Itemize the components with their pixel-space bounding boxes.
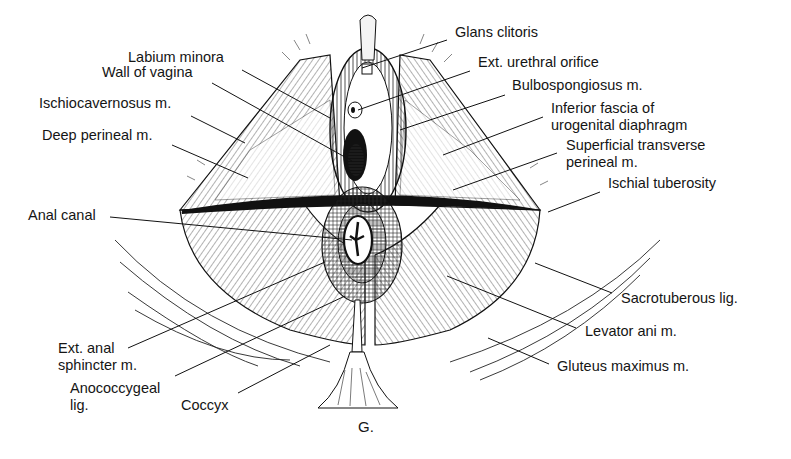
- label-bulbospongiosus: Bulbospongiosus m.: [512, 77, 643, 94]
- label-deep-perineal: Deep perineal m.: [42, 127, 152, 144]
- label-text: Gluteus maximus m.: [557, 358, 689, 375]
- label-text: Deep perineal m.: [42, 127, 152, 144]
- label-text: Superficial transverse: [566, 137, 705, 154]
- label-text: Anococcygeal: [70, 380, 160, 397]
- label-superficial-transverse: Superficial transverseperineal m.: [566, 137, 705, 171]
- label-text-line2: urogenital diaphragm: [551, 117, 687, 134]
- leader-ischial-tuberosity: [548, 192, 600, 212]
- glans-clitoris: [360, 15, 376, 60]
- label-text: Glans clitoris: [455, 24, 538, 41]
- label-gluteus-maximus: Gluteus maximus m.: [557, 358, 689, 375]
- coccyx: [318, 352, 398, 408]
- figure-caption: G.: [358, 418, 374, 435]
- label-text: Wall of vagina: [102, 64, 193, 81]
- label-text-line2: sphincter m.: [58, 357, 137, 374]
- label-text: Ext. anal: [58, 340, 137, 357]
- label-glans-clitoris: Glans clitoris: [455, 24, 538, 41]
- leader-coccyx: [238, 345, 330, 393]
- label-coccyx: Coccyx: [181, 397, 229, 414]
- label-text: Anal canal: [28, 207, 96, 224]
- label-text: Ext. urethral orifice: [478, 54, 599, 71]
- label-sacrotuberous: Sacrotuberous lig.: [621, 290, 738, 307]
- label-anal-canal: Anal canal: [28, 207, 96, 224]
- leader-gluteus-maximus: [488, 338, 549, 364]
- label-text: Levator ani m.: [585, 323, 677, 340]
- label-text-line2: perineal m.: [566, 154, 705, 171]
- label-wall-of-vagina: Wall of vagina: [102, 64, 193, 81]
- label-text: Ischiocavernosus m.: [39, 95, 171, 112]
- leader-sacrotuberous: [535, 263, 612, 293]
- label-text: Inferior fascia of: [551, 100, 687, 117]
- label-anococcygeal: Anococcygeallig.: [70, 380, 160, 414]
- label-text: Coccyx: [181, 397, 229, 414]
- label-ext-anal-sphincter: Ext. analsphincter m.: [58, 340, 137, 374]
- label-text: Ischial tuberosity: [608, 175, 716, 192]
- label-text-line2: lig.: [70, 397, 160, 414]
- label-inferior-fascia: Inferior fascia ofurogenital diaphragm: [551, 100, 687, 134]
- label-ischial-tuberosity: Ischial tuberosity: [608, 175, 716, 192]
- label-text: Sacrotuberous lig.: [621, 290, 738, 307]
- leader-ischiocavernosus: [191, 116, 245, 143]
- label-ischiocavernosus: Ischiocavernosus m.: [39, 95, 171, 112]
- label-levator-ani: Levator ani m.: [585, 323, 677, 340]
- label-ext-urethral-orifice: Ext. urethral orifice: [478, 54, 599, 71]
- label-text: Bulbospongiosus m.: [512, 77, 643, 94]
